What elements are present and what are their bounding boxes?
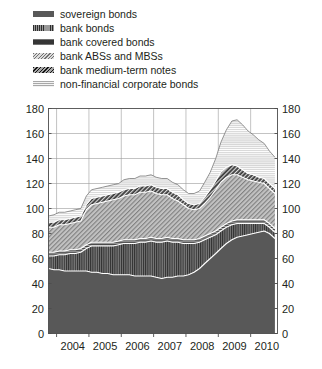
y-axis-left-tick-label: 0 [38, 328, 44, 340]
y-axis-right-tick-label: 140 [282, 153, 300, 165]
chart-stacked-bands [49, 120, 275, 334]
x-axis-tick-label: 2006 [125, 340, 149, 352]
y-axis-left-tick-label: 40 [32, 278, 44, 290]
y-axis-right-tick-label: 80 [282, 228, 294, 240]
y-axis-left-tick-label: 140 [26, 153, 44, 165]
x-axis-tick-label: 2007 [158, 340, 182, 352]
x-axis-tick-label: 2004 [61, 340, 85, 352]
y-axis-right-tick-label: 120 [282, 178, 300, 190]
y-axis-right-tick-label: 20 [282, 303, 294, 315]
y-axis-left-tick-label: 180 [26, 103, 44, 115]
y-axis-left-tick-label: 60 [32, 253, 44, 265]
y-axis-left-tick-label: 80 [32, 228, 44, 240]
chart-plot-area: 020406080100120140160180 020406080100120… [0, 0, 322, 369]
y-axis-right-labels: 020406080100120140160180 [282, 103, 300, 340]
y-axis-left-labels: 020406080100120140160180 [26, 103, 44, 340]
y-axis-right-tick-label: 0 [282, 328, 288, 340]
y-axis-right-tick-label: 160 [282, 128, 300, 140]
x-axis-tick-label: 2009 [222, 340, 246, 352]
y-axis-left-tick-label: 100 [26, 203, 44, 215]
y-axis-right-tick-label: 180 [282, 103, 300, 115]
y-axis-left-tick-label: 160 [26, 128, 44, 140]
x-axis-tick-label: 2005 [93, 340, 117, 352]
x-axis-tick-label: 2008 [190, 340, 214, 352]
y-axis-left-tick-label: 20 [32, 303, 44, 315]
y-axis-right-tick-label: 40 [282, 278, 294, 290]
y-axis-right-tick-label: 60 [282, 253, 294, 265]
x-axis-tick-label: 2010 [255, 340, 279, 352]
y-axis-right-tick-label: 100 [282, 203, 300, 215]
chart-figure: sovereign bonds bank bonds bank covered … [0, 0, 322, 369]
chart-svg: 020406080100120140160180 020406080100120… [0, 0, 322, 369]
x-axis-labels: 2004200520062007200820092010 [61, 340, 280, 352]
y-axis-left-tick-label: 120 [26, 178, 44, 190]
